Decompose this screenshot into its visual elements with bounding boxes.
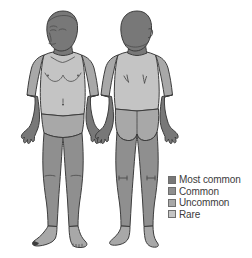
posterior-back-region xyxy=(114,51,159,111)
legend-item-most-common[interactable]: Most common xyxy=(168,174,252,186)
anterior-groin-region xyxy=(42,114,85,138)
legend-swatch-common xyxy=(168,187,176,195)
legend-label-most-common: Most common xyxy=(179,174,241,185)
anterior-view xyxy=(21,11,104,248)
legend-swatch-most-common xyxy=(168,176,176,184)
anterior-right-foot-region xyxy=(69,226,87,248)
anterior-right-leg-region xyxy=(63,133,83,227)
posterior-head-region xyxy=(121,11,152,51)
posterior-left-forearm-hand-region xyxy=(95,95,113,144)
legend-swatch-uncommon xyxy=(168,199,176,207)
legend-label-common: Common xyxy=(179,186,219,197)
legend: Most common Common Uncommon Rare xyxy=(168,174,252,220)
legend-label-uncommon: Uncommon xyxy=(179,197,229,208)
posterior-view xyxy=(95,11,178,247)
posterior-left-foot-region xyxy=(110,226,130,245)
legend-swatch-rare xyxy=(168,210,176,218)
legend-item-common[interactable]: Common xyxy=(168,186,252,198)
body-distribution-figure: Most common Common Uncommon Rare xyxy=(0,0,252,258)
legend-item-uncommon[interactable]: Uncommon xyxy=(168,197,252,209)
anterior-chest-abdomen-region xyxy=(40,51,85,116)
posterior-right-forearm-hand-region xyxy=(160,95,178,144)
anterior-left-leg-region xyxy=(43,133,63,227)
posterior-right-foot-region xyxy=(144,226,158,247)
legend-label-rare: Rare xyxy=(179,209,200,220)
legend-item-rare[interactable]: Rare xyxy=(168,209,252,221)
anterior-head-region xyxy=(47,11,78,51)
anterior-left-forearm-hand-region xyxy=(21,95,39,144)
